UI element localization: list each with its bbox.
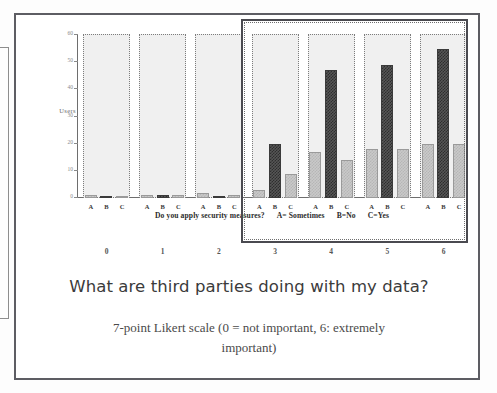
bar-tick-label: A <box>422 203 434 210</box>
bar-tick-label: B <box>437 203 449 210</box>
y-tick-label: 10 <box>58 167 73 172</box>
bar-tick-labels: ABC <box>195 201 242 211</box>
subcaption-text: 7-point Likert scale (0 = not important,… <box>72 318 426 358</box>
bar-tick-label: B <box>100 203 112 210</box>
bar-tick-label: B <box>325 203 337 210</box>
headline-text: What are third parties doing with my dat… <box>16 277 482 296</box>
bar-a <box>197 193 209 198</box>
bar-tick-label: A <box>141 203 153 210</box>
bar-stack <box>364 35 411 198</box>
y-tick-mark <box>74 197 78 198</box>
bar-stack <box>420 35 467 198</box>
bar-stack <box>83 35 130 198</box>
bar-tick-label: B <box>213 203 225 210</box>
bar-group: ABC <box>308 34 355 198</box>
slide-frame: Users 0102030405060 ABCABCABCABCABCABCAB… <box>14 13 480 380</box>
bar-b <box>269 144 281 198</box>
bar-b <box>381 65 393 198</box>
bar-c <box>397 149 409 198</box>
bar-stack <box>195 35 242 198</box>
caption-key-b: B=No <box>337 211 356 220</box>
bar-c <box>172 195 184 198</box>
bar-tick-label: C <box>341 203 353 210</box>
bar-group: ABC <box>195 34 242 198</box>
y-tick-label: 40 <box>58 85 73 90</box>
bar-tick-labels: ABC <box>83 201 130 211</box>
bar-a <box>141 195 153 198</box>
bar-tick-label: A <box>253 203 265 210</box>
bar-tick-label: C <box>397 203 409 210</box>
caption-key-a: A= Sometimes <box>277 211 325 220</box>
subcaption-line-2: important) <box>72 338 426 358</box>
likert-number-label: 3 <box>260 247 290 256</box>
bar-b <box>100 196 112 198</box>
bar-b <box>437 49 449 198</box>
bar-group: ABC <box>252 34 299 198</box>
bar-a <box>85 195 97 198</box>
subcaption-line-1: 7-point Likert scale (0 = not important,… <box>72 318 426 338</box>
bar-a <box>309 152 321 198</box>
bar-tick-labels: ABC <box>139 201 186 211</box>
bar-tick-labels: ABC <box>252 201 299 211</box>
bar-stack <box>308 35 355 198</box>
bar-tick-label: C <box>453 203 465 210</box>
bar-tick-label: A <box>85 203 97 210</box>
bar-tick-label: A <box>197 203 209 210</box>
bar-tick-labels: ABC <box>364 201 411 211</box>
likert-number-label: 0 <box>92 247 122 256</box>
bar-a <box>422 144 434 198</box>
bar-c <box>228 195 240 198</box>
page-edge-mark-vertical <box>8 47 9 319</box>
bar-b <box>157 195 169 198</box>
bar-c <box>453 144 465 198</box>
y-tick-label: 50 <box>58 58 73 63</box>
bar-c <box>341 160 353 198</box>
bar-group: ABC <box>139 34 186 198</box>
bar-stack <box>252 35 299 198</box>
bar-a <box>366 149 378 198</box>
bar-tick-label: C <box>116 203 128 210</box>
bar-tick-labels: ABC <box>308 201 355 211</box>
bar-stack <box>139 35 186 198</box>
bar-group: ABC <box>83 34 130 198</box>
bar-a <box>253 190 265 198</box>
likert-number-label: 2 <box>204 247 234 256</box>
y-tick-label: 30 <box>58 113 73 118</box>
caption-question: Do you apply security measures? <box>155 211 265 220</box>
bar-tick-label: C <box>172 203 184 210</box>
bar-c <box>285 174 297 198</box>
bar-tick-label: C <box>285 203 297 210</box>
bar-group: ABC <box>364 34 411 198</box>
bar-tick-label: B <box>381 203 393 210</box>
bar-tick-label: C <box>228 203 240 210</box>
caption-key-c: C=Yes <box>368 211 389 220</box>
bar-tick-label: A <box>309 203 321 210</box>
bar-b <box>213 196 225 198</box>
likert-number-label: 1 <box>148 247 178 256</box>
bar-group: ABC <box>420 34 467 198</box>
bar-b <box>325 70 337 198</box>
likert-number-label: 6 <box>429 247 459 256</box>
y-tick-label: 0 <box>58 194 73 199</box>
y-tick-mark <box>74 88 78 89</box>
bar-c <box>116 196 128 198</box>
likert-number-label: 5 <box>372 247 402 256</box>
bar-tick-label: B <box>157 203 169 210</box>
bar-tick-label: A <box>366 203 378 210</box>
y-tick-mark <box>74 61 78 62</box>
y-tick-mark <box>74 34 78 35</box>
y-tick-label: 60 <box>58 31 73 36</box>
likert-number-row: 0123456 <box>77 247 467 259</box>
likert-number-label: 4 <box>316 247 346 256</box>
y-tick-label: 20 <box>58 140 73 145</box>
bar-tick-labels: ABC <box>420 201 467 211</box>
bar-chart: Users 0102030405060 ABCABCABCABCABCABCAB… <box>16 15 482 268</box>
y-tick-mark <box>74 143 78 144</box>
bar-tick-label: B <box>269 203 281 210</box>
y-tick-mark <box>74 116 78 117</box>
y-tick-mark <box>74 170 78 171</box>
plot-region: 0102030405060 ABCABCABCABCABCABCABC <box>77 34 467 198</box>
slide-canvas: Users 0102030405060 ABCABCABCABCABCABCAB… <box>0 0 497 393</box>
x-axis-caption: Do you apply security measures?A= Someti… <box>77 211 467 220</box>
